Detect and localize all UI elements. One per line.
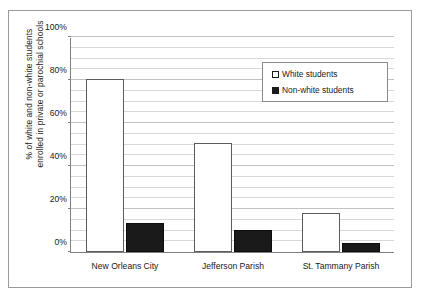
bar-non-white-students xyxy=(234,230,272,252)
chart-legend: White students Non-white students xyxy=(262,62,388,102)
legend-label-non-white-students: Non-white students xyxy=(282,85,354,95)
y-tick-label: 60% xyxy=(27,108,67,118)
bar-white-students xyxy=(86,79,124,252)
y-tick-mark xyxy=(68,36,71,37)
y-tick-mark xyxy=(68,165,71,166)
y-tick-label: 80% xyxy=(27,65,67,75)
gridline xyxy=(71,58,394,59)
bar-white-students xyxy=(302,213,340,252)
y-tick-mark xyxy=(68,122,71,123)
x-tick-label: St. Tammany Parish xyxy=(281,261,401,271)
x-tick-label: New Orleans City xyxy=(65,261,185,271)
y-tick-label: 20% xyxy=(27,194,67,204)
y-tick-mark xyxy=(68,208,71,209)
y-tick-label: 40% xyxy=(27,151,67,161)
legend-entry-non-white-students: Non-white students xyxy=(272,85,354,95)
gridline xyxy=(71,47,394,48)
y-tick-mark xyxy=(68,251,71,252)
y-tick-label: 100% xyxy=(27,22,67,32)
gridline xyxy=(71,36,394,37)
legend-swatch-filled-square-icon xyxy=(272,87,279,94)
bar-non-white-students xyxy=(126,223,164,252)
y-tick-mark xyxy=(68,79,71,80)
x-tick-label: Jefferson Parish xyxy=(173,261,293,271)
legend-label-white-students: White students xyxy=(282,69,337,79)
legend-swatch-hollow-square-icon xyxy=(272,71,279,78)
bar-white-students xyxy=(194,143,232,252)
y-tick-label: 0% xyxy=(27,237,67,247)
chart-figure: % of white and non-white students enroll… xyxy=(0,0,422,297)
legend-entry-white-students: White students xyxy=(272,69,337,79)
bar-non-white-students xyxy=(342,243,380,252)
